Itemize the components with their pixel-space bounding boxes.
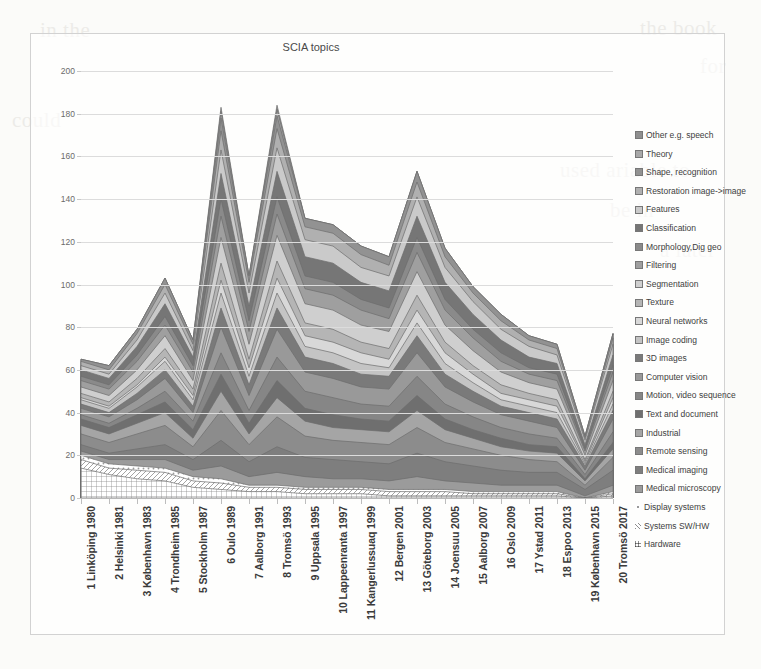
legend-swatch-icon — [635, 224, 643, 232]
x-tick-mark — [165, 499, 166, 504]
x-axis-tick-label: 3 København 1983 — [141, 506, 153, 597]
legend-item[interactable]: Medical imaging — [635, 461, 761, 480]
x-tick-mark — [221, 499, 222, 504]
x-tick-mark — [613, 499, 614, 504]
legend-swatch-icon — [635, 429, 643, 437]
y-axis-tick-label: 140 — [61, 194, 75, 204]
legend-label: Neural networks — [646, 317, 707, 326]
legend-item[interactable]: Image coding — [635, 331, 761, 350]
legend-label: Segmentation — [646, 280, 698, 289]
y-axis-tick-label: 180 — [61, 109, 75, 119]
x-tick-mark — [361, 499, 362, 504]
gridline — [81, 285, 613, 286]
legend-item[interactable]: Theory — [635, 145, 761, 164]
legend-item[interactable]: Filtering — [635, 256, 761, 275]
x-tick-mark — [417, 499, 418, 504]
legend-item[interactable]: Remote sensing — [635, 442, 761, 461]
legend-label: Display systems — [644, 503, 705, 512]
legend-swatch-icon — [635, 392, 643, 400]
y-tick-mark — [77, 327, 81, 328]
legend-item[interactable]: Segmentation — [635, 275, 761, 294]
y-axis-tick-label: 0 — [70, 493, 75, 503]
y-tick-mark — [77, 71, 81, 72]
chart-container: SCIA topics 020406080100120140160180200 … — [30, 33, 725, 635]
x-axis-tick-label: 5 Stockholm 1987 — [197, 506, 209, 593]
x-axis-ticks — [81, 499, 613, 504]
legend-item[interactable]: Classification — [635, 219, 761, 238]
legend-label: Features — [646, 205, 680, 214]
x-axis-tick-label: 18 Espoo 2013 — [561, 506, 573, 578]
y-tick-mark — [77, 242, 81, 243]
x-axis-tick-label: 14 Joensuu 2005 — [449, 506, 461, 589]
legend-item[interactable]: Texture — [635, 293, 761, 312]
legend-item[interactable]: Features — [635, 200, 761, 219]
x-tick-mark — [557, 499, 558, 504]
x-axis-tick-label: 11 Kangerlussuaq 1999 — [365, 506, 377, 620]
gridline — [81, 71, 613, 72]
legend-item[interactable]: Systems SW/HW — [635, 516, 761, 535]
y-axis-tick-label: 80 — [66, 322, 75, 332]
legend-item[interactable]: Neural networks — [635, 312, 761, 331]
x-tick-mark — [389, 499, 390, 504]
legend-swatch-icon — [635, 206, 643, 214]
legend-label: Remote sensing — [646, 447, 707, 456]
legend-swatch-icon — [635, 280, 643, 288]
legend-item[interactable]: Other e.g. speech — [635, 126, 761, 145]
legend-swatch-icon — [635, 187, 643, 195]
x-axis-tick-label: 7 Aalborg 1991 — [253, 506, 265, 579]
x-tick-mark — [501, 499, 502, 504]
legend-label: Text and document — [646, 410, 718, 419]
x-axis-tick-label: 4 Trondheim 1985 — [169, 506, 181, 593]
legend-swatch-icon — [635, 336, 643, 344]
legend-label: Shape, recognition — [646, 168, 717, 177]
x-tick-mark — [529, 499, 530, 504]
x-axis-tick-label: 15 Aalborg 2007 — [477, 506, 489, 585]
chart-title: SCIA topics — [31, 41, 591, 53]
legend-item[interactable]: Medical microscopy — [635, 479, 761, 498]
legend-label: Medical microscopy — [646, 484, 721, 493]
x-axis-tick-label: 17 Ystad 2011 — [533, 506, 545, 573]
legend-label: Texture — [646, 298, 674, 307]
legend-item[interactable]: Industrial — [635, 424, 761, 443]
legend-item[interactable]: Shape, recognition — [635, 163, 761, 182]
legend-label: Industrial — [646, 429, 681, 438]
legend-item[interactable]: Display systems — [635, 498, 761, 517]
legend-item[interactable]: Computer vision — [635, 368, 761, 387]
y-axis-tick-label: 40 — [66, 408, 75, 418]
gridline — [81, 156, 613, 157]
legend-label: Morphology,Dig geo — [646, 243, 721, 252]
legend-swatch-icon — [635, 131, 643, 139]
legend-swatch-icon — [635, 447, 643, 455]
x-axis-tick-label: 1 Linköping 1980 — [85, 506, 97, 590]
legend-label: Classification — [646, 224, 696, 233]
gridline — [81, 199, 613, 200]
legend-swatch-icon — [635, 299, 643, 307]
x-tick-mark — [109, 499, 110, 504]
legend-label: Hardware — [644, 540, 681, 549]
legend-swatch-icon — [635, 317, 643, 325]
x-tick-mark — [193, 499, 194, 504]
chart-legend: Other e.g. speechTheoryShape, recognitio… — [635, 126, 761, 554]
legend-item[interactable]: Hardware — [635, 535, 761, 554]
legend-item[interactable]: Text and document — [635, 405, 761, 424]
y-tick-mark — [77, 413, 81, 414]
legend-label: Theory — [646, 150, 672, 159]
gridline — [81, 413, 613, 414]
legend-item[interactable]: Motion, video sequence — [635, 386, 761, 405]
legend-item[interactable]: Restoration image->image — [635, 182, 761, 201]
legend-swatch-icon — [635, 150, 643, 158]
x-axis-tick-label: 6 Oulo 1989 — [225, 506, 237, 564]
legend-swatch-icon — [635, 354, 643, 362]
y-tick-mark — [77, 285, 81, 286]
x-axis-tick-label: 8 Tromsö 1993 — [281, 506, 293, 578]
legend-swatch-icon — [635, 261, 643, 269]
legend-swatch-icon — [635, 466, 643, 474]
x-axis-tick-label: 9 Uppsala 1995 — [309, 506, 321, 580]
legend-item[interactable]: 3D images — [635, 349, 761, 368]
gridline — [81, 455, 613, 456]
legend-label: Systems SW/HW — [644, 522, 709, 531]
x-axis-tick-label: 20 Tromsö 2017 — [617, 506, 629, 583]
x-axis-tick-label: 2 Helsinki 1981 — [113, 506, 125, 580]
legend-swatch-icon — [635, 243, 643, 251]
legend-item[interactable]: Morphology,Dig geo — [635, 238, 761, 257]
